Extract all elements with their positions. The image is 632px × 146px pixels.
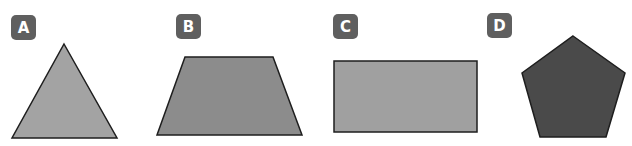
triangle-shape (12, 44, 117, 138)
trapezoid-shape (157, 57, 302, 135)
shapes-canvas (0, 0, 632, 146)
pentagon-shape (522, 36, 625, 137)
rectangle-shape (334, 61, 477, 132)
